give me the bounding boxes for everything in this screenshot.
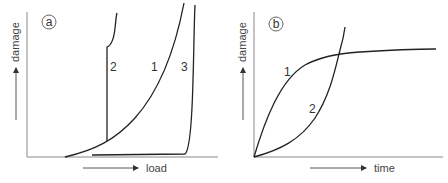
svg-text:b: b [273, 17, 280, 31]
panel-badge: b [269, 17, 283, 31]
y-axis-label: damage [236, 22, 248, 62]
curve-1 [254, 49, 436, 157]
curve-1-label: 1 [284, 65, 291, 79]
x-axis-label: time [374, 162, 395, 174]
curve-2-label: 2 [110, 60, 117, 74]
curve-1-label: 1 [151, 60, 158, 74]
x-axis-label: load [146, 162, 167, 174]
y-axis-label: damage [9, 22, 21, 62]
panel-a: a damage load 2 1 3 [9, 3, 218, 174]
damage-diagram: a damage load 2 1 3 b damage time 1 2 [0, 0, 448, 183]
curve-2 [107, 13, 117, 141]
curve-2-label: 2 [309, 102, 316, 116]
panel-badge: a [42, 15, 56, 29]
curve-3-label: 3 [181, 60, 188, 74]
curve-1 [65, 3, 184, 157]
svg-text:a: a [46, 15, 53, 29]
panel-b: b damage time 1 2 [236, 12, 443, 174]
curve-2 [254, 27, 345, 157]
